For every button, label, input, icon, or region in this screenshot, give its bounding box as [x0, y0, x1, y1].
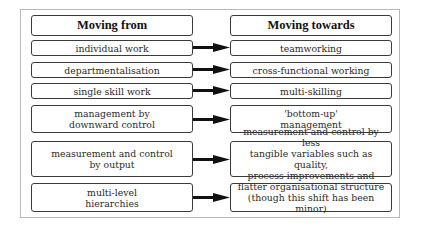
from-box-individual-work: individual work [31, 40, 193, 56]
from-box-departmentalisation: departmentalisation [31, 62, 193, 78]
right-arrow-icon [193, 155, 230, 164]
right-arrow-icon [193, 43, 230, 52]
right-arrow-icon [193, 86, 230, 95]
right-arrow-icon [193, 115, 230, 124]
header-moving-towards: Moving towards [230, 15, 392, 36]
towards-box-multi-skilling: multi-skilling [230, 83, 392, 99]
towards-box-teamworking: teamworking [230, 40, 392, 56]
from-box-multi-level-hierarchies: multi-level hierarchies [31, 183, 193, 212]
towards-box-flatter-organisational-structure: flatter organisational structure (though… [230, 183, 392, 212]
right-arrow-icon [193, 65, 230, 74]
from-box-management-by-downward-control: management by downward control [31, 105, 193, 133]
from-box-measurement-by-output: measurement and control by output [31, 141, 193, 177]
right-arrow-icon [193, 193, 230, 202]
from-box-single-skill-work: single skill work [31, 83, 193, 99]
towards-box-measurement-by-less-tangible-variables: measurement and control by less tangible… [230, 141, 392, 177]
header-moving-from: Moving from [31, 15, 193, 36]
towards-box-cross-functional-working: cross-functional working [230, 62, 392, 78]
